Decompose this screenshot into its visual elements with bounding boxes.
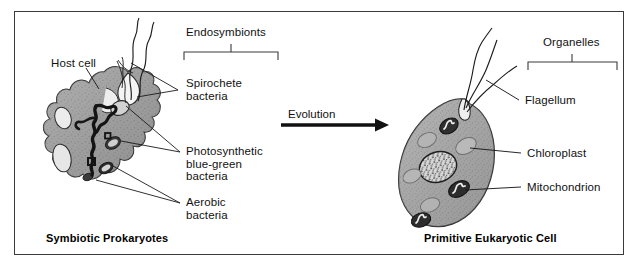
figure-canvas: Host cell Endosymbionts Spirochete bacte…: [0, 0, 637, 272]
label-endosymbionts: Endosymbionts: [186, 26, 266, 39]
label-aerobic-bacteria: Aerobic bacteria: [186, 196, 228, 221]
label-chloroplast: Chloroplast: [527, 147, 586, 160]
label-host-cell: Host cell: [51, 57, 96, 70]
label-photosynthetic-bacteria: Photosynthetic blue-green bacteria: [186, 145, 263, 183]
caption-primitive-eukaryotic-cell: Primitive Eukaryotic Cell: [424, 232, 557, 244]
label-evolution: Evolution: [288, 108, 335, 120]
label-organelles: Organelles: [543, 36, 600, 49]
label-mitochondrion: Mitochondrion: [527, 181, 601, 194]
caption-symbiotic-prokaryotes: Symbiotic Prokaryotes: [46, 232, 168, 244]
label-spirochete-bacteria: Spirochete bacteria: [186, 77, 242, 102]
figure-border: [14, 11, 624, 255]
label-flagellum: Flagellum: [525, 94, 576, 107]
